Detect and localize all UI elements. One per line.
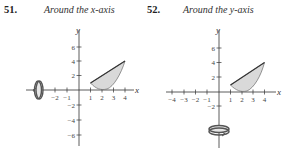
problem-51: 51. Around the x-axis −2 −1 1 2	[0, 0, 143, 155]
x-tick-label: −3	[180, 96, 188, 104]
y-axis-label: y	[75, 25, 80, 35]
x-tick-label: −4	[168, 96, 176, 104]
x-tick-label: −2	[192, 96, 200, 104]
shaded-region	[91, 61, 126, 90]
graph-52: −4 −3 −2 −1 1 2 3 4 6 4 2 −2 x y	[143, 0, 286, 155]
x-tick-label: 1	[229, 96, 233, 104]
y-tick-label: −2	[68, 102, 76, 110]
graph-51: −2 −1 1 2 3 4 6 4 2 −2 −4 −6 x y	[0, 0, 143, 155]
x-tick-label: −2	[51, 94, 59, 102]
shaded-region	[231, 63, 265, 92]
problem-52: 52. Around the y-axis −4 −3 −2 −1	[143, 0, 286, 155]
rotation-arrow-icon	[209, 126, 229, 137]
x-tick-label: 2	[100, 94, 104, 102]
x-tick-label: 4	[123, 94, 127, 102]
x-tick-label: 4	[263, 96, 267, 104]
y-tick-label: 4	[212, 59, 216, 67]
y-tick-label: −4	[68, 117, 76, 125]
x-tick-label: 3	[251, 96, 255, 104]
x-tick-label: 2	[240, 96, 244, 104]
x-tick-label: 3	[112, 94, 116, 102]
rotation-arrow-icon	[33, 81, 43, 99]
y-tick-label: 4	[72, 58, 76, 66]
x-axis-label: x	[134, 85, 139, 95]
y-tick-label: 2	[72, 72, 76, 80]
y-axis-label: y	[215, 25, 220, 35]
y-tick-label: −6	[68, 132, 76, 140]
y-tick-label: −2	[208, 103, 216, 111]
y-tick-label: 6	[72, 44, 76, 52]
x-tick-label: 1	[89, 94, 93, 102]
y-tick-label: 2	[212, 74, 216, 82]
y-tick-label: 6	[212, 45, 216, 53]
x-axis-label: x	[276, 87, 281, 97]
